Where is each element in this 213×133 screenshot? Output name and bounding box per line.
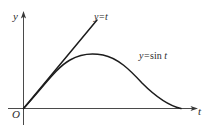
curve-y-equals-sin-t: [24, 54, 182, 109]
origin-label: O: [12, 109, 20, 120]
figure-container: y t O y=t y=sin t: [0, 0, 213, 133]
sine-label-function: sin: [150, 50, 162, 61]
y-axis-label: y: [13, 11, 18, 22]
sine-label-rhs: t: [164, 50, 167, 61]
t-axis-label: t: [198, 106, 201, 117]
sine-curve-label: y=sin t: [139, 51, 167, 61]
line-label-rhs: t: [105, 11, 108, 22]
line-curve-label: y=t: [94, 12, 108, 22]
